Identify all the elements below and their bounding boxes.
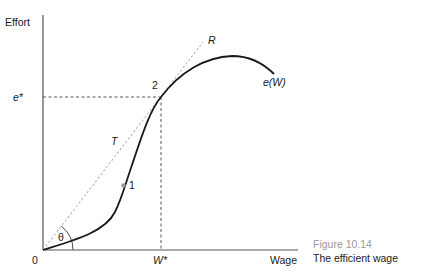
ray-line: [43, 42, 203, 250]
figure-title: The efficient wage: [313, 252, 398, 264]
w-star-label: W*: [153, 254, 168, 266]
y-axis-label: Effort: [5, 16, 30, 28]
point-2-label: 2: [152, 79, 158, 91]
point-1-marker: [121, 183, 125, 187]
ray-start-label: T: [111, 135, 119, 147]
efficient-wage-diagram: Effort Wage 0 e* W* e(W) R T θ 1 2 Figur…: [0, 0, 423, 279]
ray-end-label: R: [208, 34, 216, 46]
point-1-label: 1: [129, 179, 135, 191]
x-axis-label: Wage: [270, 254, 297, 266]
theta-label: θ: [58, 231, 64, 243]
e-star-label: e*: [13, 91, 24, 103]
curve-label: e(W): [263, 76, 286, 88]
figure-number: Figure 10.14: [313, 238, 372, 250]
effort-curve: [43, 56, 274, 250]
origin-label: 0: [32, 254, 38, 266]
